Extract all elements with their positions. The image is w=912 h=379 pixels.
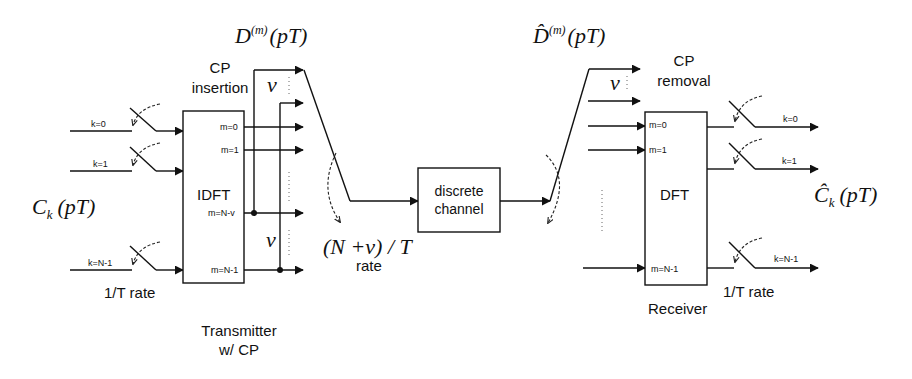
- cp-removal-label-2: removal: [657, 72, 710, 89]
- cp-insertion-label: CP: [210, 59, 231, 76]
- input-label-k1: k=1: [93, 159, 108, 169]
- output-label-k0: k=0: [783, 114, 798, 124]
- receiver: CP removal v DFT m=0 m=1 m=N-1 k=0 k=1: [583, 52, 877, 317]
- channel-label-2: channel: [434, 201, 483, 217]
- dft-input-m1: m=1: [649, 145, 667, 155]
- rx-signal-label: D̂(m)(pT): [532, 23, 605, 48]
- output-switch-k0: k=0: [707, 96, 818, 127]
- input-rate-label: 1/T rate: [104, 284, 155, 301]
- idft-output-m0: m=0: [220, 122, 238, 132]
- cp-removal-label: CP: [674, 52, 695, 69]
- output-label-k1: k=1: [782, 156, 797, 166]
- parallel-to-serial-commutator: D(m)(pT) (N +v) / T rate: [234, 23, 418, 274]
- tx-signal-label: D(m)(pT): [234, 23, 307, 48]
- input-label-k0: k=0: [91, 119, 106, 129]
- output-symbol-label: Ĉk(pT): [814, 182, 877, 210]
- output-label-kN-1: k=N-1: [774, 254, 798, 264]
- idft-label: IDFT: [197, 186, 230, 203]
- transmitter-caption-2: w/ CP: [218, 341, 259, 358]
- output-rate-label: 1/T rate: [723, 283, 774, 300]
- idft-output-m1: m=1: [221, 145, 239, 155]
- receiver-caption: Receiver: [648, 300, 707, 317]
- input-label-kN-1: k=N-1: [88, 258, 112, 268]
- serial-rate-word: rate: [356, 257, 382, 274]
- input-switch-kN-1: k=N-1: [70, 242, 183, 270]
- serial-to-parallel-commutator: D̂(m)(pT): [532, 23, 640, 223]
- dft-label: DFT: [660, 186, 689, 203]
- transmitter: Ck(pT) k=0 k=1 k=N-1 1/T rate: [32, 59, 303, 358]
- cp-insertion-label-2: insertion: [192, 79, 249, 96]
- output-switch-k1: k=1: [707, 139, 818, 169]
- cp-nu-top: v: [267, 72, 277, 97]
- cp-insertion-paths: [251, 70, 303, 273]
- channel-label-1: discrete: [434, 183, 483, 199]
- input-switch-k0: k=0: [70, 104, 183, 131]
- ofdm-cp-block-diagram: Ck(pT) k=0 k=1 k=N-1 1/T rate: [0, 0, 912, 379]
- rx-nu: v: [610, 70, 620, 95]
- serial-rate-expr: (N +v) / T: [323, 234, 414, 259]
- channel-block: [418, 168, 500, 232]
- transmitter-caption: Transmitter: [201, 322, 276, 339]
- discrete-channel: discrete channel: [418, 168, 550, 232]
- dft-input-m0: m=0: [649, 120, 667, 130]
- idft-output-mN-1: m=N-1: [211, 265, 238, 275]
- idft-output-mN-v: m=N-v: [208, 208, 235, 218]
- input-symbol-label: Ck(pT): [32, 194, 95, 222]
- output-switch-kN-1: k=N-1: [707, 238, 818, 268]
- input-switch-k1: k=1: [70, 143, 183, 171]
- cp-nu-bottom: v: [266, 227, 276, 252]
- dft-input-mN-1: m=N-1: [651, 264, 678, 274]
